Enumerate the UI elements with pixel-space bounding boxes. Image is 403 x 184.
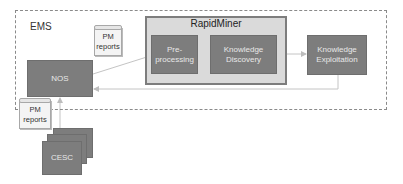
nos-label: NOS xyxy=(51,74,68,84)
preprocessing-label-line2: processing xyxy=(155,55,194,65)
pm-reports-bottom-line1: PM xyxy=(23,105,46,114)
ke-label-line1: Knowledge xyxy=(316,45,357,55)
ke-label-line2: Exploitation xyxy=(316,55,357,65)
cesc-node: CESC xyxy=(42,141,82,175)
cesc-label: CESC xyxy=(51,153,73,163)
pm-reports-top-line2: reports xyxy=(96,42,119,51)
pm-reports-bottom-line2: reports xyxy=(23,115,46,124)
preprocessing-node: Pre- processing xyxy=(151,35,198,74)
kd-label-line2: Discovery xyxy=(224,55,264,65)
pm-reports-top-line1: PM xyxy=(96,32,119,41)
nos-node: NOS xyxy=(27,60,93,97)
ems-label: EMS xyxy=(30,21,52,32)
knowledge-discovery-node: Knowledge Discovery xyxy=(210,35,277,74)
pm-reports-document-bottom: PM reports xyxy=(19,100,51,129)
preprocessing-label-line1: Pre- xyxy=(155,45,194,55)
knowledge-exploitation-node: Knowledge Exploitation xyxy=(307,35,367,75)
pm-reports-document-top: PM reports xyxy=(94,27,122,56)
kd-label-line1: Knowledge xyxy=(224,45,264,55)
rapidminer-label: RapidMiner xyxy=(145,18,287,29)
